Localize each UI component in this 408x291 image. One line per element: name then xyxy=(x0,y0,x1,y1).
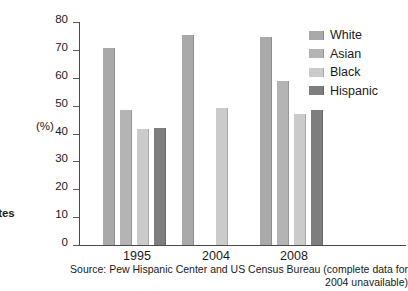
bar-white-2008[interactable] xyxy=(260,37,272,245)
legend-swatch-black xyxy=(309,68,324,77)
y-tick-label: 30 xyxy=(55,153,68,165)
chart-figure: ates (%) 80706050403020100 199520042008 … xyxy=(0,0,408,291)
legend-label: White xyxy=(330,29,362,42)
bar-group: 1995 xyxy=(103,22,171,245)
plot-area: 80706050403020100 199520042008 xyxy=(79,22,307,245)
y-tick-mark xyxy=(73,50,79,51)
source-note: Source: Pew Hispanic Center and US Censu… xyxy=(60,263,408,289)
legend-item-asian[interactable]: Asian xyxy=(309,45,378,64)
bar-white-1995[interactable] xyxy=(103,48,115,245)
bar-hispanic-2008[interactable] xyxy=(311,110,323,245)
x-axis-label-1995: 1995 xyxy=(103,250,171,263)
y-tick-label: 10 xyxy=(55,209,68,221)
y-tick-mark xyxy=(73,189,79,190)
cropped-axis-title: ates xyxy=(0,207,15,219)
y-tick-label: 80 xyxy=(55,14,68,26)
legend-swatch-asian xyxy=(309,49,324,58)
legend-item-white[interactable]: White xyxy=(309,26,378,45)
x-axis-line xyxy=(79,245,406,246)
y-tick-label: 70 xyxy=(55,42,68,54)
bar-asian-2008[interactable] xyxy=(277,81,289,245)
y-tick-label: 20 xyxy=(55,181,68,193)
y-tick-mark xyxy=(73,217,79,218)
bar-group: 2004 xyxy=(182,22,250,245)
y-axis-line xyxy=(79,22,80,245)
legend-label: Black xyxy=(330,66,361,79)
y-tick-label: 40 xyxy=(55,126,68,138)
y-tick-mark xyxy=(73,134,79,135)
legend-item-hispanic[interactable]: Hispanic xyxy=(309,82,378,101)
y-tick-label: 60 xyxy=(55,70,68,82)
y-axis-unit-label: (%) xyxy=(36,121,54,133)
legend-item-black[interactable]: Black xyxy=(309,63,378,82)
bar-black-2004[interactable] xyxy=(216,108,228,245)
legend-swatch-white xyxy=(309,31,324,40)
x-axis-label-2004: 2004 xyxy=(182,250,250,263)
y-tick-mark xyxy=(73,245,79,246)
bar-black-2008[interactable] xyxy=(294,114,306,245)
legend-label: Hispanic xyxy=(330,85,378,98)
bar-hispanic-1995[interactable] xyxy=(154,128,166,245)
legend-label: Asian xyxy=(330,48,361,61)
x-axis-label-2008: 2008 xyxy=(260,250,328,263)
bar-black-1995[interactable] xyxy=(137,129,149,245)
bar-asian-1995[interactable] xyxy=(120,110,132,245)
legend-swatch-hispanic xyxy=(309,86,324,95)
y-tick-mark xyxy=(73,106,79,107)
y-tick-mark xyxy=(73,22,79,23)
y-tick-label: 50 xyxy=(55,98,68,110)
y-tick-mark xyxy=(73,161,79,162)
bar-white-2004[interactable] xyxy=(182,35,194,245)
y-tick-label: 0 xyxy=(62,237,68,249)
legend: WhiteAsianBlackHispanic xyxy=(309,26,378,100)
y-tick-mark xyxy=(73,78,79,79)
